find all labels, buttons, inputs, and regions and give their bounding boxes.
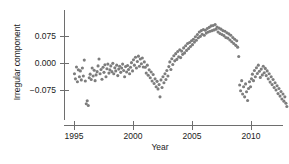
data-point [195,39,198,42]
data-point [94,79,97,82]
data-point [106,63,109,66]
data-point [81,66,84,69]
data-point [255,66,258,69]
data-point [102,71,105,74]
data-point [150,70,153,73]
data-point [119,71,122,74]
data-point [268,72,271,75]
data-point [73,72,76,75]
data-point [74,77,77,80]
data-point [164,78,167,81]
data-point [277,87,280,90]
x-axis-title: Year [120,143,200,152]
data-point [239,89,242,92]
chart-figure: 0.0750.000−0.075 1995200020052010 Irregu… [0,0,289,164]
data-point [92,74,95,77]
data-point [128,72,131,75]
data-point [149,76,152,79]
data-point [114,69,117,72]
data-point [84,79,87,82]
data-point [245,90,248,93]
data-point [279,90,282,93]
data-point [274,81,277,84]
data-point [115,64,118,67]
data-point [263,71,266,74]
data-point [179,56,182,59]
data-point [103,63,106,66]
data-point [152,73,155,76]
data-point [180,50,183,53]
data-point [87,104,90,107]
data-point [117,68,120,71]
data-point [90,78,93,81]
data-point [237,55,240,58]
data-point [86,99,89,102]
data-point [267,77,270,80]
data-point [165,69,168,72]
data-point [123,75,126,78]
y-axis-title: Irregular component [13,7,22,117]
y-axis-tick-label: 0.000 [0,59,56,68]
data-point [246,99,249,102]
data-point [283,95,286,98]
data-point [154,77,157,80]
data-point [137,55,140,58]
data-point [214,23,217,26]
data-point [122,69,125,72]
data-point [95,73,98,76]
data-point [249,85,252,88]
data-point [93,69,96,72]
y-axis-tick-label: −0.075 [0,86,56,95]
data-points-group [73,23,289,108]
data-point [121,63,124,66]
data-point [111,62,114,65]
y-axis-tick-label: 0.075 [0,32,56,41]
data-point [138,65,141,68]
data-point [125,70,128,73]
data-point [82,74,85,77]
data-point [260,68,263,71]
data-point [109,64,112,67]
data-point [272,78,275,81]
data-point [130,61,133,64]
x-axis-tick-label: 2005 [170,132,214,141]
data-point [285,105,288,108]
data-point [101,66,104,69]
x-axis-tick-label: 2010 [229,132,273,141]
data-point [107,72,110,75]
data-point [241,92,244,95]
data-point [120,66,123,69]
data-point [153,82,156,85]
data-point [97,57,100,60]
data-point [113,66,116,69]
data-point [136,60,139,63]
data-point [147,74,150,77]
data-point [96,70,99,73]
data-point [235,39,238,42]
data-point [161,75,164,78]
data-point [271,83,274,86]
data-point [264,67,267,70]
data-point [97,64,100,67]
data-point [132,58,135,61]
data-point [276,84,279,87]
data-point [281,92,284,95]
data-point [163,72,166,75]
data-point [254,75,257,78]
data-point [133,64,136,67]
data-point [170,57,173,60]
data-point [169,68,172,71]
data-point [159,78,162,81]
data-point [75,65,78,68]
data-point [248,80,251,83]
data-point [140,62,143,65]
data-point [134,56,137,59]
x-axis-tick-label: 1995 [52,132,96,141]
data-point [156,80,159,83]
data-point [242,85,245,88]
data-point [143,60,146,63]
data-point [251,73,254,76]
data-point [257,64,260,67]
data-point [273,86,276,89]
data-point [274,88,277,91]
